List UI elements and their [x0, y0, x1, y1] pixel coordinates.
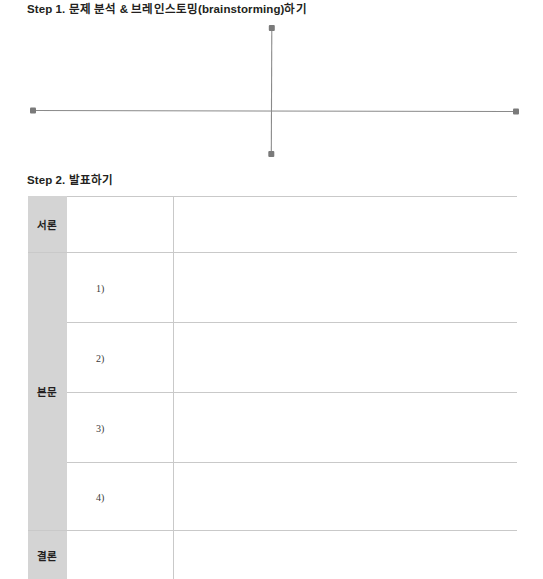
left-endpoint-dot [30, 108, 36, 114]
item-number-cell[interactable] [67, 531, 173, 579]
bottom-endpoint-dot [268, 151, 274, 157]
content-cell[interactable] [173, 531, 517, 579]
table-rule-top [67, 196, 517, 197]
content-cell[interactable] [173, 463, 517, 530]
section-label-cell-seoron: 서론 [28, 196, 67, 252]
horizontal-axis-line [33, 111, 516, 112]
vertical-axis-line [271, 28, 272, 154]
item-number-cell[interactable]: 2) [67, 323, 173, 392]
content-cell[interactable] [173, 253, 517, 322]
table-column-divider [173, 196, 174, 579]
table-rule [67, 392, 517, 393]
section-label-cell-bonmun: 본문 [28, 253, 67, 530]
item-number-text: 4) [96, 491, 104, 502]
item-number-cell[interactable] [67, 196, 173, 252]
right-endpoint-dot [513, 109, 519, 115]
item-number-text: 2) [96, 352, 104, 363]
section-label-text: 결론 [37, 548, 57, 563]
item-number-cell[interactable]: 3) [67, 393, 173, 462]
worksheet-page: Step 1. 문제 분석 & 브레인스토밍(brainstorming)하기 … [0, 0, 543, 579]
section-label-text: 서론 [37, 217, 57, 232]
content-cell[interactable] [173, 323, 517, 392]
item-number-text: 3) [96, 422, 104, 433]
item-number-cell[interactable]: 1) [67, 253, 173, 322]
crosshair-diagram[interactable] [0, 18, 543, 168]
table-rule [67, 462, 517, 463]
step-1-title: Step 1. 문제 분석 & 브레인스토밍(brainstorming)하기 [27, 2, 307, 16]
presentation-outline-table: 서론 본문 1) 2) 3) 4) 결론 [28, 196, 517, 579]
content-cell[interactable] [173, 196, 517, 252]
table-rule [28, 252, 517, 253]
item-number-cell[interactable]: 4) [67, 463, 173, 530]
section-label-text: 본문 [37, 384, 57, 399]
top-endpoint-dot [269, 25, 275, 31]
item-number-text: 1) [96, 282, 104, 293]
content-cell[interactable] [173, 393, 517, 462]
table-rule [67, 322, 517, 323]
section-label-cell-gyeollon: 결론 [28, 531, 67, 579]
table-rule [28, 530, 517, 531]
step-2-title: Step 2. 발표하기 [27, 173, 113, 187]
